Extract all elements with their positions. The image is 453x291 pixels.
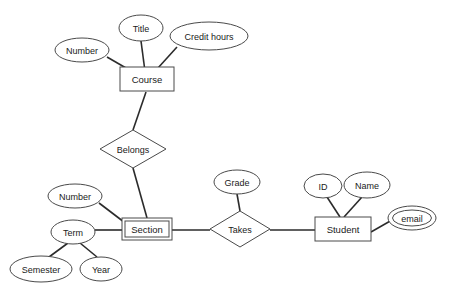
relationship-label: Belongs	[117, 145, 150, 155]
attribute-term-semester[interactable]: Semester	[10, 256, 72, 282]
connector-belongs-section	[133, 168, 147, 218]
attribute-label: Semester	[22, 265, 61, 275]
relationship-label: Takes	[228, 225, 252, 235]
er-diagram-canvas: Title Credit hours Number Course Belongs…	[0, 0, 453, 291]
attribute-section-term[interactable]: Term	[51, 220, 95, 244]
relationship-takes[interactable]: Takes	[210, 211, 270, 247]
connector-course-belongs	[133, 92, 146, 130]
connector-number-section	[99, 203, 124, 222]
attribute-label: Credit hours	[184, 32, 234, 42]
attribute-label: Title	[133, 24, 150, 34]
attribute-student-id[interactable]: ID	[304, 174, 342, 198]
attribute-label: ID	[319, 182, 329, 192]
entity-course[interactable]: Course	[120, 67, 174, 91]
attribute-label: Year	[92, 265, 110, 275]
attribute-label: Name	[355, 181, 379, 191]
entity-section[interactable]: Section	[122, 218, 172, 240]
attribute-section-number[interactable]: Number	[48, 184, 102, 208]
attribute-student-name[interactable]: Name	[344, 172, 390, 198]
attribute-label: Number	[59, 192, 91, 202]
attribute-label: Number	[66, 46, 98, 56]
entity-label: Student	[327, 224, 360, 235]
entity-label: Section	[131, 224, 163, 235]
attribute-student-email[interactable]: email	[388, 206, 436, 230]
attribute-takes-grade[interactable]: Grade	[214, 170, 260, 194]
attribute-label: Grade	[224, 178, 249, 188]
attribute-course-credit-hours[interactable]: Credit hours	[170, 22, 248, 50]
connector-term-year	[80, 243, 97, 257]
er-diagram-svg: Title Credit hours Number Course Belongs…	[0, 0, 453, 291]
attribute-course-number[interactable]: Number	[55, 38, 109, 62]
relationship-belongs[interactable]: Belongs	[100, 130, 166, 168]
connector-name-student	[344, 197, 362, 217]
entity-student[interactable]: Student	[315, 217, 371, 241]
entity-label: Course	[132, 74, 163, 85]
attribute-course-title[interactable]: Title	[119, 15, 163, 41]
connector-id-student	[327, 197, 340, 217]
connector-grade-takes	[237, 194, 240, 211]
connector-term-semester	[49, 243, 68, 257]
attribute-label: Term	[63, 228, 83, 238]
attribute-label: email	[401, 214, 423, 224]
attribute-term-year[interactable]: Year	[80, 257, 122, 281]
